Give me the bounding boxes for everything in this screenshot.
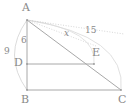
vertex-label-a: A: [22, 2, 30, 13]
vertex-label-b: B: [21, 94, 29, 105]
vertex-label-d: D: [14, 57, 23, 68]
dotted-rays: [27, 20, 124, 46]
geometry-figure: A B C D E 9 6 x 15: [0, 0, 129, 111]
segment-ac: [27, 20, 121, 90]
vertex-label-c: C: [118, 94, 126, 105]
vertex-dot-b: [26, 89, 28, 91]
vertex-label-e: E: [92, 47, 100, 58]
vertex-dot-c: [120, 89, 122, 91]
vertex-dot-d: [26, 63, 28, 65]
measure-label-ac: 15: [85, 26, 96, 35]
arc-ab-icon: [15, 20, 28, 90]
triangle-segments: [27, 20, 121, 90]
measure-label-ae: x: [64, 29, 69, 38]
measure-label-ab: 9: [4, 47, 10, 56]
measure-label-ad: 6: [21, 36, 27, 45]
vertex-dot-e: [93, 63, 95, 65]
vertex-dot-a: [26, 19, 28, 21]
